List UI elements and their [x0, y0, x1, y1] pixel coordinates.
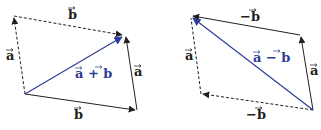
vector-addition-diagram: b a a b a + b: [6, 7, 143, 123]
vector-subtraction-diagram: −b a a −b a − b: [185, 9, 319, 123]
label-top-b: b: [68, 7, 77, 22]
vector-diagrams: b a a b a + b −b a a −b a − b: [0, 0, 321, 130]
label-bottom-b: b: [74, 107, 83, 122]
label-top-neg-b: −b: [240, 9, 260, 24]
vector-a-dashed: [14, 18, 25, 94]
label-bottom-neg-b: −b: [246, 107, 266, 122]
